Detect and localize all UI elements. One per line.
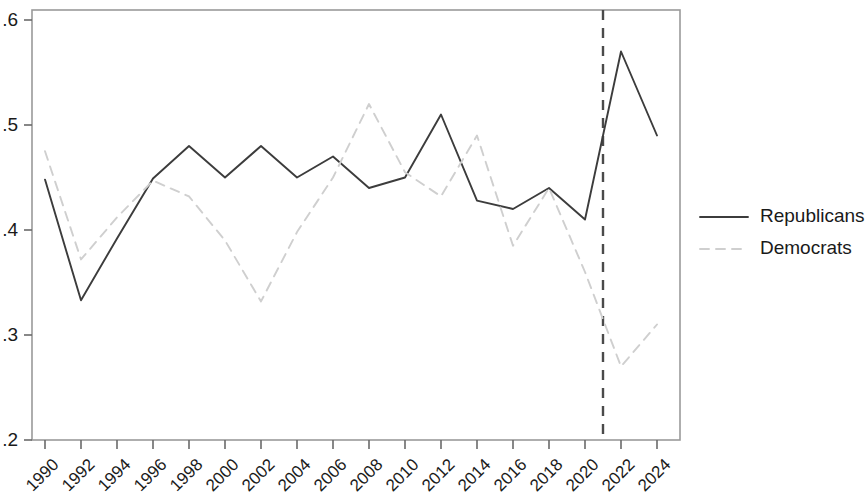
y-tick-label: .4	[0, 219, 18, 241]
legend-label-republicans: Republicans	[760, 205, 865, 227]
series-line-democrats	[45, 104, 657, 367]
y-tick-label: .2	[0, 429, 18, 451]
y-axis-ticks	[24, 20, 32, 440]
legend-label-democrats: Democrats	[760, 237, 852, 259]
y-tick-label: .3	[0, 324, 18, 346]
y-tick-label: .5	[0, 114, 18, 136]
plot-area-border	[32, 10, 680, 440]
y-tick-label: .6	[0, 9, 18, 31]
legend-line-keys	[700, 217, 748, 249]
data-series-group	[45, 52, 657, 367]
series-line-republicans	[45, 52, 657, 301]
x-axis-ticks	[45, 440, 657, 449]
